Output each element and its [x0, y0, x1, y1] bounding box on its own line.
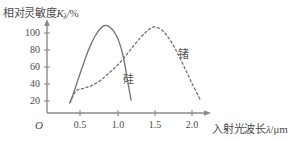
axis-lines — [44, 19, 211, 116]
sensitivity-wavelength-chart: 相对灵敏度Kλ/% 100 80 60 40 20 O 0.5 1.0 1.5 … — [0, 0, 292, 141]
germanium-curve — [70, 27, 201, 103]
silicon-curve — [70, 25, 131, 102]
chart-canvas — [0, 0, 292, 141]
x-axis-arrow — [204, 110, 211, 116]
y-axis-arrow — [44, 19, 50, 26]
